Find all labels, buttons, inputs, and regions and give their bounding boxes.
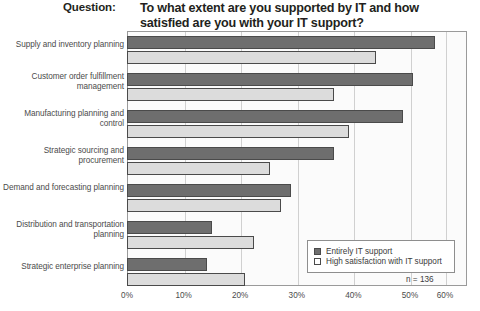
x-tick-label: 60% bbox=[425, 291, 465, 300]
category-label: Distribution and transportation planning bbox=[2, 220, 124, 239]
bar-high-satisfaction bbox=[127, 273, 245, 286]
legend-item-entirely-it-support: Entirely IT support bbox=[314, 247, 449, 256]
category-label: Demand and forecasting planning bbox=[2, 183, 124, 193]
chart-row: Supply and inventory planning bbox=[0, 36, 480, 70]
bar-entirely-it-support bbox=[127, 110, 403, 123]
chart-row: Demand and forecasting planning bbox=[0, 184, 480, 218]
chart-row: Customer order fulfillment management bbox=[0, 73, 480, 107]
bar-high-satisfaction bbox=[127, 199, 281, 212]
legend-label: High satisfaction with IT support bbox=[326, 257, 442, 266]
chart-row: Manufacturing planning and control bbox=[0, 110, 480, 144]
x-tick-label: 30% bbox=[277, 291, 317, 300]
chart-legend: Entirely IT support High satisfaction wi… bbox=[307, 240, 455, 273]
bar-chart: Supply and inventory planning Customer o… bbox=[0, 0, 480, 311]
bar-entirely-it-support bbox=[127, 147, 334, 160]
category-label: Strategic enterprise planning bbox=[2, 262, 124, 272]
bar-high-satisfaction bbox=[127, 236, 254, 249]
x-tick-label: 20% bbox=[220, 291, 260, 300]
category-label: Supply and inventory planning bbox=[2, 40, 124, 50]
category-label: Manufacturing planning and control bbox=[2, 109, 124, 128]
bar-high-satisfaction bbox=[127, 88, 334, 101]
bar-entirely-it-support bbox=[127, 73, 413, 86]
bar-entirely-it-support bbox=[127, 36, 435, 49]
light-swatch-icon bbox=[314, 258, 321, 265]
x-tick-label: 40% bbox=[333, 291, 373, 300]
bar-entirely-it-support bbox=[127, 258, 207, 271]
bar-high-satisfaction bbox=[127, 125, 349, 138]
category-label: Customer order fulfillment management bbox=[2, 72, 124, 91]
bar-entirely-it-support bbox=[127, 221, 212, 234]
sample-size-label: n = 136 bbox=[406, 275, 434, 284]
bar-entirely-it-support bbox=[127, 184, 291, 197]
x-tick-label: 0% bbox=[107, 291, 147, 300]
category-label: Strategic sourcing and procurement bbox=[2, 146, 124, 165]
dark-swatch-icon bbox=[314, 248, 321, 255]
chart-row: Strategic sourcing and procurement bbox=[0, 147, 480, 181]
bar-high-satisfaction bbox=[127, 51, 376, 64]
legend-label: Entirely IT support bbox=[326, 247, 392, 256]
legend-item-high-satisfaction: High satisfaction with IT support bbox=[314, 257, 449, 266]
bar-high-satisfaction bbox=[127, 162, 270, 175]
x-tick-label: 50% bbox=[390, 291, 430, 300]
x-tick-label: 10% bbox=[164, 291, 204, 300]
